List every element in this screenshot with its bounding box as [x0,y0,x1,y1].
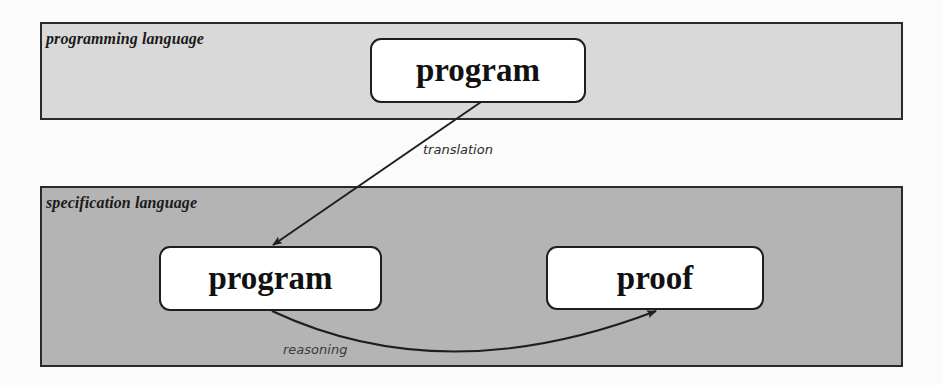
translation-label: translation [423,142,493,157]
programming-language-label: programming language [46,30,204,48]
specification-language-label: specification language [46,194,197,212]
program-node-bottom: program [159,246,382,311]
reasoning-label: reasoning [283,342,347,357]
program-node-top: program [370,38,586,103]
proof-node: proof [546,246,764,310]
